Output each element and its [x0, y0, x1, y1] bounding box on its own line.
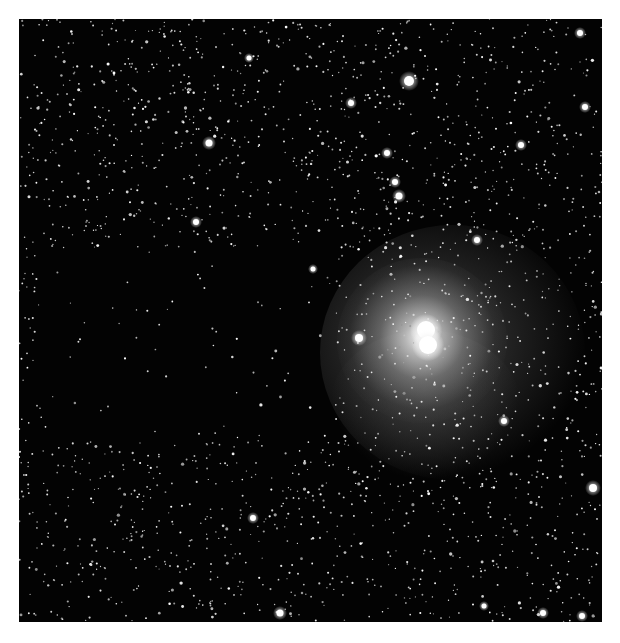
star-field-image — [19, 19, 602, 622]
stars-layer — [19, 19, 602, 622]
